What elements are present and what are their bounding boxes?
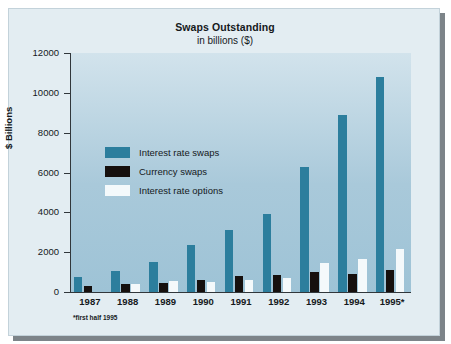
legend-swatch-icon-interest-rate-swaps [105, 147, 130, 158]
bar-1987-series-2 [84, 286, 93, 292]
x-tick-label: 1988 [109, 296, 147, 307]
bar-1987-series-1 [74, 277, 83, 292]
bar-1993-series-2 [310, 272, 319, 292]
bar-1993-series-1 [300, 167, 309, 292]
legend-swatch-icon-currency-swaps [105, 166, 130, 177]
bar-1994-series-3 [358, 259, 367, 292]
chart-subtitle: in billions ($) [9, 34, 441, 47]
chart-card: Swaps Outstanding in billions ($) $ Bill… [8, 8, 440, 336]
legend: Interest rate swaps Currency swaps Inter… [105, 143, 223, 200]
y-tick-mark [64, 133, 70, 134]
bar-1994-series-2 [348, 274, 357, 292]
legend-item-interest-rate-swaps: Interest rate swaps [105, 143, 223, 162]
bar-1988-series-2 [121, 284, 130, 292]
x-tick-label: 1992 [260, 296, 298, 307]
x-tick-label: 1994 [335, 296, 373, 307]
x-axis-line [70, 292, 411, 293]
legend-label-interest-rate-swaps: Interest rate swaps [139, 147, 219, 158]
title-block: Swaps Outstanding in billions ($) [9, 21, 441, 47]
bar-1988-series-1 [111, 271, 120, 292]
bar-1989-series-1 [149, 262, 158, 292]
x-tick-label: 1987 [71, 296, 109, 307]
y-tick-mark [64, 212, 70, 213]
bar-1993-series-3 [320, 263, 329, 292]
y-tick-label: 8000 [9, 127, 59, 138]
y-tick-label: 4000 [9, 206, 59, 217]
bar-1995-series-2 [386, 270, 395, 292]
y-tick-label: 6000 [9, 167, 59, 178]
y-tick-mark [64, 252, 70, 253]
bar-1992-series-2 [273, 275, 282, 292]
x-tick-label: 1993 [298, 296, 336, 307]
legend-label-currency-swaps: Currency swaps [139, 166, 207, 177]
bar-1995-series-1 [376, 77, 385, 292]
bar-1991-series-3 [245, 280, 254, 292]
y-tick-label: 12000 [9, 47, 59, 58]
y-tick-label: 2000 [9, 246, 59, 257]
bar-1989-series-3 [169, 281, 178, 292]
chart-title: Swaps Outstanding [9, 21, 441, 34]
y-tick-mark [64, 173, 70, 174]
legend-label-interest-rate-options: Interest rate options [139, 185, 223, 196]
bar-1991-series-2 [235, 276, 244, 292]
chart-figure: Swaps Outstanding in billions ($) $ Bill… [0, 0, 451, 344]
bar-1992-series-3 [283, 278, 292, 292]
footnote: *first half 1995 [73, 314, 117, 321]
x-tick-label: 1991 [222, 296, 260, 307]
bar-1989-series-2 [159, 283, 168, 292]
bar-1990-series-3 [207, 282, 216, 292]
legend-swatch-icon-interest-rate-options [105, 185, 130, 196]
legend-item-interest-rate-options: Interest rate options [105, 181, 223, 200]
legend-item-currency-swaps: Currency swaps [105, 162, 223, 181]
y-tick-label: 10000 [9, 87, 59, 98]
bar-1992-series-1 [263, 214, 272, 292]
bar-1991-series-1 [225, 230, 234, 292]
y-tick-mark [64, 53, 70, 54]
bar-1990-series-1 [187, 245, 196, 292]
bar-1994-series-1 [338, 115, 347, 292]
y-tick-mark [64, 292, 70, 293]
x-tick-label: 1995* [373, 296, 411, 307]
x-tick-label: 1990 [184, 296, 222, 307]
bar-1995-series-3 [396, 249, 405, 292]
y-tick-label: 0 [9, 286, 59, 297]
y-tick-mark [64, 93, 70, 94]
x-tick-label: 1989 [147, 296, 185, 307]
bar-1988-series-3 [131, 284, 140, 292]
bar-1990-series-2 [197, 280, 206, 292]
y-axis-line [70, 53, 71, 293]
